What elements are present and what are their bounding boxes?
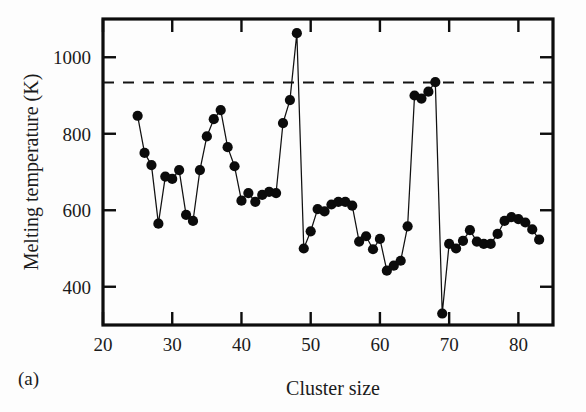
data-point [188, 216, 198, 226]
data-point [306, 226, 316, 236]
data-point [236, 196, 246, 206]
x-tick-label: 30 [163, 334, 182, 355]
series-data-points [133, 28, 545, 319]
data-point [527, 224, 537, 234]
data-point [285, 95, 295, 105]
figure-panel: 4006008001000 20304050607080 Melting tem… [0, 0, 586, 412]
data-point [229, 161, 239, 171]
data-point [361, 231, 371, 241]
data-point [403, 221, 413, 231]
y-tick-label: 1000 [53, 47, 91, 68]
data-point [202, 131, 212, 141]
y-axis-tick-labels: 4006008001000 [53, 47, 91, 298]
data-point [368, 244, 378, 254]
data-point [195, 165, 205, 175]
data-point [458, 236, 468, 246]
data-point [278, 118, 288, 128]
data-point [430, 77, 440, 87]
data-point [493, 229, 503, 239]
x-tick-label: 80 [509, 334, 528, 355]
data-point [451, 243, 461, 253]
data-point [146, 160, 156, 170]
x-tick-label: 50 [301, 334, 320, 355]
data-point [153, 219, 163, 229]
data-point [223, 142, 233, 152]
plot-frame [103, 19, 553, 325]
data-point [292, 28, 302, 38]
x-axis-tick-labels: 20304050607080 [94, 334, 528, 355]
data-point [486, 239, 496, 249]
data-point [167, 174, 177, 184]
melting-temperature-chart: 4006008001000 20304050607080 Melting tem… [0, 0, 586, 412]
data-point [375, 234, 385, 244]
x-tick-label: 60 [370, 334, 389, 355]
data-point [423, 87, 433, 97]
y-axis-ticks [103, 57, 553, 287]
x-tick-label: 40 [232, 334, 251, 355]
y-tick-label: 600 [63, 200, 92, 221]
y-tick-label: 800 [63, 124, 92, 145]
x-tick-label: 20 [94, 334, 113, 355]
data-point [299, 243, 309, 253]
panel-letter-label: (a) [18, 368, 39, 390]
data-point [174, 165, 184, 175]
data-point [209, 114, 219, 124]
data-point [465, 225, 475, 235]
data-point [437, 308, 447, 318]
data-point [396, 256, 406, 266]
data-point [347, 201, 357, 211]
y-axis-title: Melting temperature (K) [20, 74, 43, 271]
data-point [139, 148, 149, 158]
y-tick-label: 400 [63, 277, 92, 298]
x-tick-label: 70 [440, 334, 459, 355]
data-point [243, 188, 253, 198]
data-point [216, 105, 226, 115]
x-axis-title: Cluster size [286, 377, 380, 399]
data-point [271, 188, 281, 198]
data-point [133, 111, 143, 121]
data-point [534, 235, 544, 245]
